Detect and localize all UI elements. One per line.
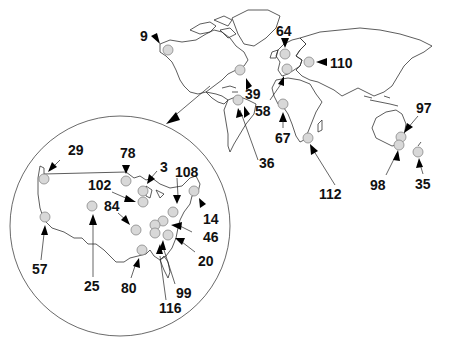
lead-europe xyxy=(270,84,281,100)
lead-99 xyxy=(164,250,175,284)
site-marker-3a[interactable] xyxy=(138,186,148,196)
lead-108 xyxy=(177,178,178,196)
label-78: 78 xyxy=(120,146,136,160)
lead-80 xyxy=(131,266,135,278)
label-116: 116 xyxy=(159,301,182,315)
arrow-46 xyxy=(171,222,182,230)
label-108: 108 xyxy=(175,165,198,179)
site-marker-80[interactable] xyxy=(137,245,147,255)
site-marker-108[interactable] xyxy=(168,207,178,217)
arrow-108 xyxy=(173,195,181,204)
site-marker-39[interactable] xyxy=(235,65,245,75)
site-marker-20[interactable] xyxy=(163,230,173,240)
site-marker-25[interactable] xyxy=(87,201,97,211)
arrow-29 xyxy=(48,162,57,172)
label-98: 98 xyxy=(370,178,386,192)
site-marker-116[interactable] xyxy=(150,228,160,238)
arrow-57 xyxy=(41,225,48,235)
label-80: 80 xyxy=(121,281,137,295)
label-57: 57 xyxy=(32,262,48,276)
arrow-58 xyxy=(244,106,250,118)
site-marker-84[interactable] xyxy=(131,225,141,235)
site-marker-europe[interactable] xyxy=(282,64,292,74)
label-110: 110 xyxy=(330,56,353,70)
label-3: 3 xyxy=(160,160,168,174)
madagascar-outline xyxy=(318,120,322,132)
label-9: 9 xyxy=(140,29,148,43)
great-lakes-outline xyxy=(146,186,164,198)
site-marker-14[interactable] xyxy=(189,186,199,196)
site-marker-35[interactable] xyxy=(413,147,423,157)
label-112: 112 xyxy=(319,187,342,201)
north-america-outline xyxy=(160,30,248,94)
lead-57 xyxy=(41,234,44,260)
indonesia-outline xyxy=(364,96,398,106)
lead-112 xyxy=(312,148,335,185)
central-america-outline xyxy=(206,92,228,104)
label-64: 64 xyxy=(276,24,292,38)
label-35: 35 xyxy=(415,177,431,191)
site-marker-29[interactable] xyxy=(39,174,49,184)
label-25: 25 xyxy=(84,279,100,293)
site-marker-112[interactable] xyxy=(303,133,313,143)
site-marker-57[interactable] xyxy=(40,212,50,222)
label-84: 84 xyxy=(104,199,120,213)
inset-connector-arrowhead xyxy=(166,112,180,124)
world-outline xyxy=(160,10,432,154)
arrow-3 xyxy=(147,174,155,184)
site-marker-78[interactable] xyxy=(121,176,131,186)
arrow-80 xyxy=(133,258,140,268)
label-67: 67 xyxy=(275,131,291,145)
label-14: 14 xyxy=(203,212,219,226)
label-36: 36 xyxy=(259,156,275,170)
site-marker-64[interactable] xyxy=(280,49,290,59)
arrow-14 xyxy=(199,198,206,208)
caribbean-outline xyxy=(222,86,238,92)
arrow-98 xyxy=(393,150,400,161)
us-sites xyxy=(39,174,199,255)
lead-116 xyxy=(160,256,166,300)
greenland-outline xyxy=(232,10,280,46)
arrow-25 xyxy=(89,214,97,225)
site-marker-58[interactable] xyxy=(233,95,243,105)
label-58: 58 xyxy=(255,104,271,118)
arrow-9 xyxy=(151,33,160,44)
site-marker-98[interactable] xyxy=(394,140,404,150)
site-marker-110[interactable] xyxy=(304,57,314,67)
arrow-112 xyxy=(310,144,318,155)
label-99: 99 xyxy=(176,286,192,300)
arrow-35 xyxy=(416,158,423,168)
arrow-110 xyxy=(316,58,327,66)
site-marker-9[interactable] xyxy=(163,45,173,55)
arctic-islands-outline xyxy=(190,16,236,38)
site-marker-67[interactable] xyxy=(278,99,288,109)
arrow-78 xyxy=(122,165,130,174)
label-20: 20 xyxy=(198,254,214,268)
label-102: 102 xyxy=(88,178,111,192)
lead-20 xyxy=(182,242,195,252)
arrow-20 xyxy=(175,238,185,245)
arrow-36 xyxy=(236,108,243,118)
lead-46 xyxy=(180,226,192,232)
world-map xyxy=(0,0,452,341)
label-29: 29 xyxy=(68,143,84,157)
label-97: 97 xyxy=(416,101,432,115)
world-sites xyxy=(163,45,423,157)
label-39: 39 xyxy=(245,87,261,101)
label-46: 46 xyxy=(203,230,219,244)
arrow-102 xyxy=(124,195,136,202)
site-marker-102[interactable] xyxy=(138,197,148,207)
inset-connector-line xyxy=(172,86,210,118)
arrow-64 xyxy=(281,38,289,48)
